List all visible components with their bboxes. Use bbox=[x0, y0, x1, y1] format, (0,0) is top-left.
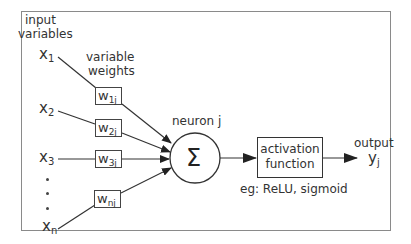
input-x1: x1 bbox=[39, 47, 54, 66]
input-x2: x2 bbox=[39, 101, 54, 120]
sum-symbol: Σ bbox=[186, 146, 201, 170]
input-title-line1: input bbox=[25, 14, 56, 27]
neuron-label: neuron j bbox=[172, 115, 221, 128]
weight-w1j: w1j bbox=[95, 87, 122, 105]
output-yj: yj bbox=[368, 151, 380, 170]
line-x2-w2 bbox=[58, 111, 95, 124]
input-x3: x3 bbox=[39, 150, 54, 169]
input-xn: xn bbox=[42, 219, 57, 238]
activation-label-line1: activation bbox=[258, 142, 322, 157]
ellipsis-dot bbox=[46, 207, 49, 210]
weights-title-line1: variable bbox=[86, 51, 134, 64]
weights-title-line2: weights bbox=[88, 65, 135, 78]
activation-function-box: activation function bbox=[257, 137, 323, 178]
weight-w3j: w3j bbox=[95, 150, 122, 168]
ellipsis-dot bbox=[46, 178, 49, 181]
input-title-line2: variables bbox=[18, 28, 73, 41]
activation-examples: eg: ReLU, sigmoid bbox=[240, 183, 348, 196]
weight-wnj: wnj bbox=[94, 190, 121, 208]
line-xn-wn bbox=[58, 205, 95, 229]
ellipsis-dot bbox=[46, 192, 49, 195]
activation-label-line2: function bbox=[258, 157, 322, 172]
weight-w2j: w2j bbox=[95, 119, 122, 137]
